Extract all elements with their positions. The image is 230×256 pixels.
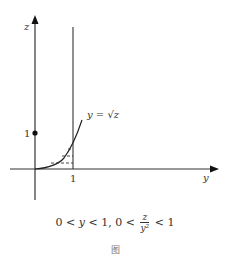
fraction-numerator: z [140,212,149,223]
figure-footer: 图 [0,243,230,256]
z-tick-label: 1 [24,128,30,139]
point-z-1 [32,130,37,135]
caption-part2: < 1, 0 < [85,216,138,229]
curve-label: y = √z [86,109,120,120]
z-axis-arrow-icon [32,15,39,24]
caption-part3: < 1 [151,216,174,229]
caption-fraction: zy² [140,212,149,233]
fraction-denominator: y² [140,223,149,233]
caption: 0 < y < 1, 0 < zy² < 1 [0,212,230,233]
z-axis-label: z [23,21,30,32]
y-axis-label: y [202,172,209,183]
y-tick-label: 1 [70,173,76,184]
curve-y-sqrt-z [35,120,82,169]
caption-part1: 0 < [56,216,79,229]
y-axis-arrow-icon [210,166,219,173]
